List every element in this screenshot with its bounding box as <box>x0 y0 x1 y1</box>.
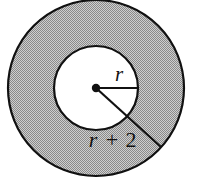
center-point-dot <box>92 84 100 92</box>
outer-radius-label: r + 2 <box>89 127 137 152</box>
outer-radius-label-operator: + <box>106 127 118 152</box>
outer-radius-label-constant: 2 <box>126 127 137 152</box>
annulus-svg: r r + 2 <box>0 0 197 179</box>
outer-radius-label-variable: r <box>89 127 98 152</box>
inner-radius-label: r <box>115 62 124 86</box>
annulus-figure: r r + 2 <box>0 0 197 179</box>
